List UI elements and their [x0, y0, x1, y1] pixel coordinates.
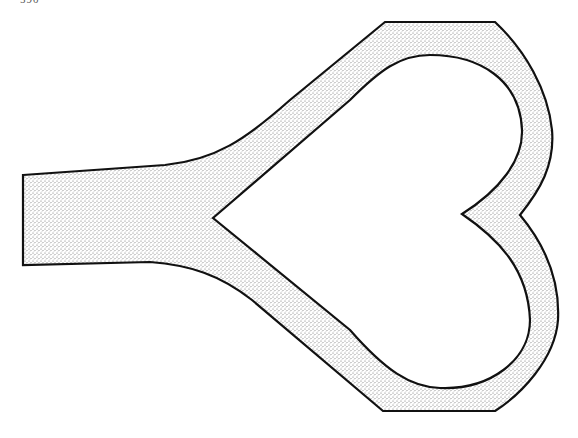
heart-stem-figure: [0, 0, 578, 438]
shape-outline: [23, 22, 558, 411]
